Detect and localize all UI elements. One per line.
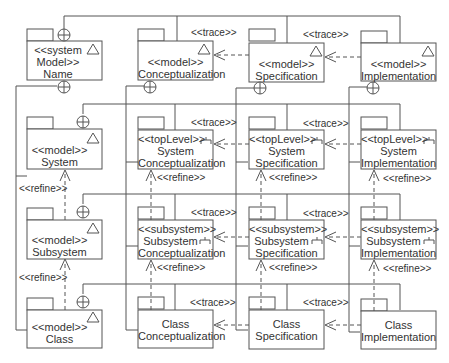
trace-label: <<trace>> — [190, 297, 236, 308]
package-name: System — [138, 145, 213, 157]
trace-label: <<trace>> — [191, 207, 237, 218]
stereotype-cont: Model>> — [27, 56, 89, 68]
package-model-implementation: <<model>> Implementation — [361, 58, 436, 82]
package-name: System — [249, 145, 324, 157]
trace-label: <<trace>> — [191, 117, 237, 128]
package-system-implementation: <<topLevel>> System Implementation — [361, 133, 436, 169]
package-name: Conceptualization — [138, 157, 213, 169]
package-model-specification: <<model>> Specification — [249, 58, 324, 82]
trace-label: <<trace>> — [303, 297, 349, 308]
package-name: Subsystem — [249, 235, 324, 247]
package-name: Class — [138, 318, 213, 330]
package-name: Subsystem — [138, 235, 213, 247]
package-name: Class — [249, 318, 324, 330]
package-name: Conceptualization — [138, 330, 213, 342]
package-name: Conceptualization — [138, 247, 213, 259]
trace-label: <<trace>> — [191, 27, 237, 38]
package-class-specification: Class Specification — [249, 318, 324, 342]
stereotype: <<subsystem>> — [361, 223, 436, 235]
stereotype: <<model>> — [361, 58, 436, 70]
package-model-conceptualization: <<model>> Conceptualization — [138, 56, 213, 80]
stereotype: <<topLevel>> — [138, 133, 213, 145]
package-name: Class — [27, 333, 92, 345]
refine-label: <<refine>> — [269, 262, 317, 273]
package-system-specification: <<topLevel>> System Specification — [249, 133, 324, 169]
refine-label: <<refine>> — [383, 263, 431, 274]
refine-label: <<refine>> — [269, 172, 317, 183]
refine-label: <<refine>> — [383, 173, 431, 184]
package-name: Subsystem — [361, 235, 436, 247]
package-name: Implementation — [361, 247, 436, 259]
refine-label: <<refine>> — [19, 183, 67, 194]
package-name: System — [27, 156, 92, 168]
stereotype: <<subsystem>> — [138, 223, 213, 235]
package-model-system: <<model>> System — [27, 144, 92, 168]
package-subsystem-conceptualization: <<subsystem>> Subsystem Conceptualizatio… — [138, 223, 213, 259]
package-name: Specification — [249, 157, 324, 169]
refine-label: <<refine>> — [157, 172, 205, 183]
package-name: Class — [361, 319, 436, 331]
stereotype: <<subsystem>> — [249, 223, 324, 235]
trace-label: <<trace>> — [303, 208, 349, 219]
stereotype: <<model>> — [27, 321, 92, 333]
package-name: Specification — [249, 70, 324, 82]
stereotype: <<model>> — [27, 144, 92, 156]
package-name: System — [361, 145, 436, 157]
package-name: Specification — [249, 330, 324, 342]
stereotype: <<system — [27, 44, 89, 56]
package-class-conceptualization: Class Conceptualization — [138, 318, 213, 342]
package-name: Conceptualization — [138, 68, 213, 80]
package-name: Subsystem — [27, 246, 92, 258]
refine-label: <<refine>> — [19, 272, 67, 283]
package-model-subsystem: <<model>> Subsystem — [27, 234, 92, 258]
package-model-class: <<model>> Class — [27, 321, 92, 345]
package-class-implementation: Class Implementation — [361, 319, 436, 343]
package-name: Implementation — [361, 157, 436, 169]
stereotype: <<topLevel>> — [249, 133, 324, 145]
package-system-conceptualization: <<topLevel>> System Conceptualization — [138, 133, 213, 169]
refine-label: <<refine>> — [157, 262, 205, 273]
stereotype: <<model>> — [138, 56, 213, 68]
package-subsystem-specification: <<subsystem>> Subsystem Specification — [249, 223, 324, 259]
stereotype: <<model>> — [249, 58, 324, 70]
package-name: Name — [27, 68, 89, 80]
package-name: Specification — [249, 247, 324, 259]
stereotype: <<topLevel>> — [361, 133, 436, 145]
stereotype: <<model>> — [27, 234, 92, 246]
package-subsystem-implementation: <<subsystem>> Subsystem Implementation — [361, 223, 436, 259]
trace-label: <<trace>> — [303, 118, 349, 129]
package-system-model-name: <<system Model>> Name — [27, 44, 89, 80]
trace-label: <<trace>> — [303, 29, 349, 40]
package-name: Implementation — [361, 331, 436, 343]
package-name: Implementation — [361, 70, 436, 82]
